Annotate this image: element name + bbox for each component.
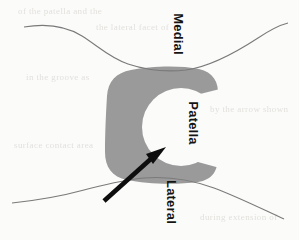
diagram-canvas: [0, 0, 299, 240]
patella-figure: of the patella and the the lateral facet…: [0, 0, 299, 240]
label-patella: Patella: [186, 93, 200, 153]
label-lateral: Lateral: [164, 173, 178, 231]
inferior-soft-tissue-contour: [12, 177, 284, 219]
superior-soft-tissue-contour: [24, 23, 288, 71]
patellar-groove-cartilage: [105, 66, 218, 183]
label-medial: Medial: [171, 6, 185, 62]
